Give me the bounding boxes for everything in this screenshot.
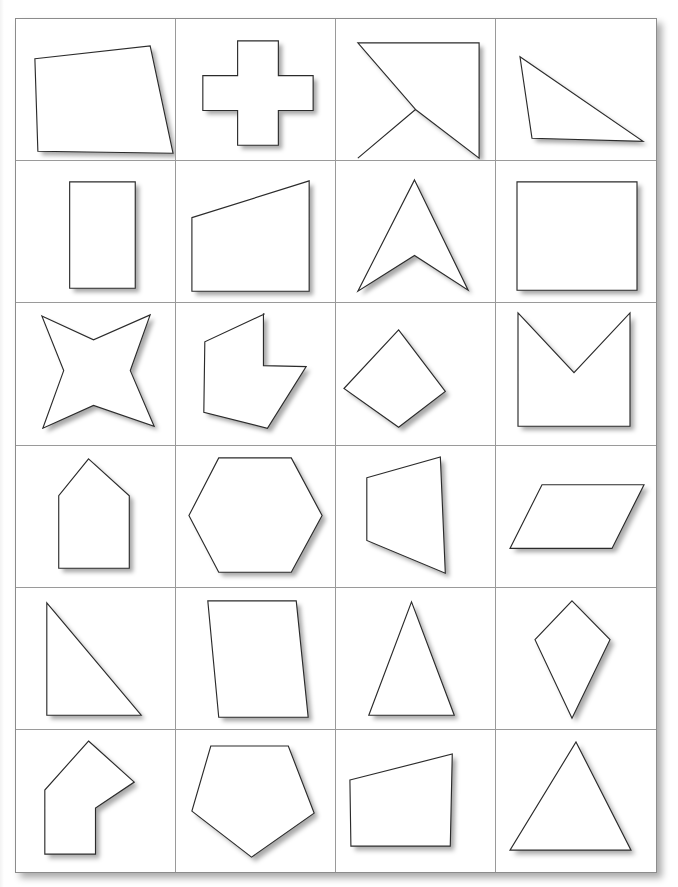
shape-cell-r2-c2 — [176, 161, 336, 303]
shape-cell-r1-c3 — [336, 19, 496, 161]
shape-cell-r3-c2 — [176, 303, 336, 445]
shape-cell-r3-c4 — [496, 303, 656, 445]
shape-canvas-isosceles-triangle — [336, 588, 495, 729]
shape-isosceles-triangle — [369, 602, 454, 715]
shape-cell-r6-c1 — [16, 730, 176, 872]
shape-cell-r2-c3 — [336, 161, 496, 303]
shape-parallelogram — [510, 484, 644, 548]
shape-cell-r5-c2 — [176, 588, 336, 730]
shape-cross-plus — [203, 41, 313, 145]
shape-canvas-slanted-parallelogram — [176, 588, 335, 729]
shape-canvas-bowtie-hourglass — [336, 19, 495, 160]
shape-canvas-right-trapezoid — [176, 161, 335, 302]
shape-canvas-square — [496, 161, 656, 302]
shape-cell-r2-c4 — [496, 161, 656, 303]
shape-canvas-concave-hexagon-notched — [176, 303, 335, 444]
shape-cell-r4-c2 — [176, 446, 336, 588]
shape-cell-r3-c1 — [16, 303, 176, 445]
shape-vertical-rectangle — [70, 182, 136, 288]
shape-canvas-parallelogram — [496, 446, 656, 587]
shape-cell-r1-c4 — [496, 19, 656, 161]
shape-cell-r4-c3 — [336, 446, 496, 588]
shape-canvas-irregular-trapezoid — [336, 730, 495, 872]
shapes-sheet — [15, 18, 657, 873]
shapes-grid — [16, 19, 656, 872]
shape-canvas-acute-triangle — [496, 730, 656, 872]
shape-cell-r6-c3 — [336, 730, 496, 872]
shape-cell-r5-c3 — [336, 588, 496, 730]
shape-concave-hexagon-notched — [204, 314, 306, 428]
shape-canvas-bent-arrow-hexagon — [16, 730, 175, 872]
shape-square-with-v-notch — [518, 313, 630, 426]
shape-canvas-pentagon — [176, 730, 335, 872]
shape-cell-r5-c4 — [496, 588, 656, 730]
shape-house-pentagon — [59, 458, 130, 567]
shape-kite-rhombus — [535, 601, 610, 718]
shape-cell-r4-c1 — [16, 446, 176, 588]
shape-canvas-obtuse-triangle — [496, 19, 656, 160]
shape-canvas-concave-arrowhead — [336, 161, 495, 302]
shape-right-trapezoid — [192, 181, 309, 291]
shape-irregular-quadrilateral — [35, 46, 173, 153]
shape-right-triangle — [47, 603, 141, 715]
shape-canvas-vertical-rectangle — [16, 161, 175, 302]
shape-trapezoid-right — [367, 456, 446, 572]
shape-square — [517, 182, 637, 290]
shape-cell-r3-c3 — [336, 303, 496, 445]
shape-cell-r2-c1 — [16, 161, 176, 303]
shape-cell-r4-c4 — [496, 446, 656, 588]
shape-canvas-right-triangle — [16, 588, 175, 729]
shape-canvas-irregular-kite-quadrilateral — [336, 303, 495, 444]
shape-canvas-irregular-quadrilateral — [16, 19, 175, 160]
shape-canvas-cross-plus — [176, 19, 335, 160]
shape-cell-r6-c2 — [176, 730, 336, 872]
shape-canvas-house-pentagon — [16, 446, 175, 587]
shape-cell-r6-c4 — [496, 730, 656, 872]
shape-irregular-trapezoid — [350, 754, 452, 846]
shape-cell-r1-c2 — [176, 19, 336, 161]
shape-four-pointed-star — [42, 315, 154, 428]
shape-canvas-square-with-v-notch — [496, 303, 656, 444]
shape-cell-r5-c1 — [16, 588, 176, 730]
shape-slanted-parallelogram — [208, 601, 308, 717]
shape-acute-triangle — [510, 742, 631, 850]
scan-edge-shading — [0, 0, 4, 887]
shape-concave-arrowhead — [358, 180, 468, 291]
shape-obtuse-triangle — [520, 57, 643, 141]
shape-canvas-hexagon — [176, 446, 335, 587]
shape-canvas-four-pointed-star — [16, 303, 175, 444]
shape-canvas-kite-rhombus — [496, 588, 656, 729]
worksheet-page — [0, 0, 678, 887]
shape-bowtie-hourglass — [358, 43, 479, 158]
shape-irregular-kite-quadrilateral — [344, 330, 445, 427]
shape-canvas-trapezoid-right — [336, 446, 495, 587]
shape-cell-r1-c1 — [16, 19, 176, 161]
